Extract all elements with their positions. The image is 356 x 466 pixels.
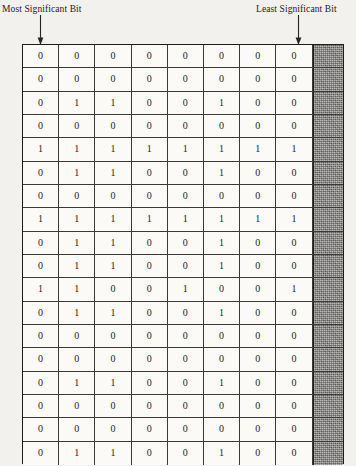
most-significant-bit-label: Most Significant Bit: [2, 3, 82, 15]
bit-cell: 0: [276, 395, 312, 417]
bit-cell: 0: [168, 232, 204, 254]
bit-cell: 0: [240, 372, 276, 394]
shaded-column-cell: [313, 348, 344, 370]
bit-cell: 0: [23, 442, 59, 465]
bit-cell: 0: [240, 68, 276, 90]
bit-cell: 0: [204, 68, 240, 90]
bit-cell: 0: [240, 162, 276, 184]
bit-cell: 0: [168, 68, 204, 90]
bit-cell: 1: [59, 372, 95, 394]
bit-cell: 0: [23, 45, 59, 67]
shaded-column-cell: [313, 68, 344, 90]
shaded-column-cell: [313, 302, 344, 324]
bit-cell: 0: [276, 115, 312, 137]
bit-cell: 0: [132, 185, 168, 207]
bit-cell: 1: [168, 208, 204, 230]
bit-cell: 1: [276, 208, 312, 230]
bit-cell: 0: [276, 162, 312, 184]
table-row: 01100100: [23, 92, 343, 115]
bit-cell: 0: [23, 92, 59, 114]
bit-cell: 0: [204, 115, 240, 137]
bit-cell: 0: [59, 45, 95, 67]
bit-cell: 0: [168, 115, 204, 137]
bit-cell: 0: [132, 115, 168, 137]
bit-cell: 0: [23, 372, 59, 394]
bit-cell: 0: [95, 185, 131, 207]
bit-cell: 0: [204, 45, 240, 67]
bit-cell: 0: [132, 325, 168, 347]
bit-cell: 0: [240, 185, 276, 207]
bit-cell: 1: [95, 372, 131, 394]
bit-cell: 0: [23, 325, 59, 347]
table-row: 01100100: [23, 302, 343, 325]
bit-cell: 0: [168, 348, 204, 370]
bit-cell: 0: [240, 115, 276, 137]
bit-cell: 0: [168, 325, 204, 347]
bit-cell: 0: [132, 302, 168, 324]
bit-cell: 0: [168, 92, 204, 114]
bit-cell: 0: [168, 255, 204, 277]
shaded-column-cell: [313, 255, 344, 277]
bit-cell: 0: [168, 442, 204, 465]
bit-cell: 1: [204, 372, 240, 394]
bit-cell: 0: [204, 185, 240, 207]
bit-cell: 0: [240, 325, 276, 347]
bit-cell: 0: [276, 302, 312, 324]
bit-cell: 0: [95, 115, 131, 137]
bit-cell: 1: [59, 162, 95, 184]
table-row: 01100100: [23, 372, 343, 395]
bit-cell: 0: [168, 302, 204, 324]
bit-cell: 0: [168, 418, 204, 440]
bit-cell: 1: [276, 278, 312, 300]
bit-cell: 0: [132, 442, 168, 465]
least-significant-bit-label: Least Significant Bit: [256, 3, 337, 15]
bit-cell: 0: [276, 442, 312, 465]
bit-cell: 0: [23, 162, 59, 184]
bit-cell: 0: [23, 348, 59, 370]
bit-cell: 0: [276, 418, 312, 440]
bit-cell: 1: [168, 138, 204, 160]
table-row: 00000000: [23, 68, 343, 91]
bit-cell: 1: [95, 92, 131, 114]
bit-cell: 0: [59, 395, 95, 417]
bit-cell: 0: [132, 348, 168, 370]
bit-cell: 0: [59, 115, 95, 137]
shaded-column-cell: [313, 395, 344, 417]
bit-cell: 0: [132, 162, 168, 184]
bit-cell: 0: [276, 68, 312, 90]
bit-cell: 1: [95, 208, 131, 230]
bit-cell: 0: [23, 395, 59, 417]
bit-cell: 0: [132, 395, 168, 417]
shaded-column-cell: [313, 232, 344, 254]
bit-cell: 1: [168, 278, 204, 300]
bit-cell: 1: [95, 442, 131, 465]
bit-cell: 1: [95, 255, 131, 277]
shaded-column-cell: [313, 418, 344, 440]
bit-cell: 1: [59, 208, 95, 230]
shaded-column-cell: [313, 162, 344, 184]
bit-cell: 1: [59, 138, 95, 160]
shaded-column-cell: [313, 208, 344, 230]
bit-cell: 0: [240, 278, 276, 300]
shaded-column-cell: [313, 372, 344, 394]
bit-cell: 0: [95, 348, 131, 370]
bit-cell: 0: [168, 45, 204, 67]
bit-cell: 1: [132, 208, 168, 230]
table-row: 00000000: [23, 185, 343, 208]
bit-cell: 0: [276, 45, 312, 67]
bit-cell: 1: [132, 138, 168, 160]
bit-cell: 1: [59, 442, 95, 465]
bit-cell: 1: [95, 302, 131, 324]
table-row: 00000000: [23, 325, 343, 348]
bit-cell: 0: [59, 325, 95, 347]
table-row: 00000000: [23, 395, 343, 418]
bit-cell: 0: [204, 395, 240, 417]
bit-cell: 1: [59, 232, 95, 254]
bit-cell: 1: [59, 302, 95, 324]
bit-cell: 0: [23, 255, 59, 277]
bit-cell: 0: [168, 185, 204, 207]
bit-cell: 0: [168, 395, 204, 417]
table-row: 11001001: [23, 278, 343, 301]
bit-cell: 1: [204, 138, 240, 160]
bit-cell: 1: [59, 278, 95, 300]
